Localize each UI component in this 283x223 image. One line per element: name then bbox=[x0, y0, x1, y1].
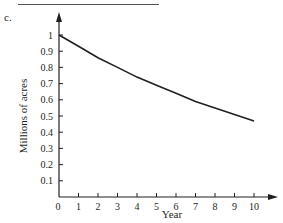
x-tick-label: 10 bbox=[249, 201, 259, 212]
x-axis-ticks: 012345678910 bbox=[56, 193, 260, 212]
y-tick-label: 0.1 bbox=[41, 175, 54, 186]
y-tick-label: 0.3 bbox=[41, 143, 54, 154]
chart: 0.10.20.30.40.50.60.70.80.91 01234567891… bbox=[0, 0, 283, 223]
axes bbox=[56, 12, 278, 200]
y-tick-label: 0.7 bbox=[41, 78, 54, 89]
y-tick-label: 0.4 bbox=[41, 127, 54, 138]
x-axis-arrow-icon bbox=[268, 194, 278, 200]
x-tick-label: 0 bbox=[56, 201, 61, 212]
y-tick-label: 1 bbox=[48, 30, 53, 41]
y-tick-label: 0.2 bbox=[41, 159, 54, 170]
y-tick-label: 0.9 bbox=[41, 46, 54, 57]
x-tick-label: 7 bbox=[193, 201, 198, 212]
y-tick-label: 0.6 bbox=[41, 94, 54, 105]
x-tick-label: 3 bbox=[115, 201, 120, 212]
x-tick-label: 4 bbox=[135, 201, 140, 212]
x-tick-label: 9 bbox=[232, 201, 237, 212]
x-tick-label: 2 bbox=[96, 201, 101, 212]
y-axis-title: Millions of acres bbox=[17, 79, 29, 154]
y-axis-ticks: 0.10.20.30.40.50.60.70.80.91 bbox=[41, 30, 64, 187]
x-axis-title: Year bbox=[162, 208, 183, 220]
x-tick-label: 5 bbox=[154, 201, 159, 212]
y-axis-arrow-icon bbox=[56, 12, 62, 22]
y-tick-label: 0.8 bbox=[41, 62, 54, 73]
y-tick-label: 0.5 bbox=[41, 111, 54, 122]
data-curve bbox=[59, 35, 254, 121]
x-tick-label: 8 bbox=[213, 201, 218, 212]
x-tick-label: 1 bbox=[76, 201, 81, 212]
